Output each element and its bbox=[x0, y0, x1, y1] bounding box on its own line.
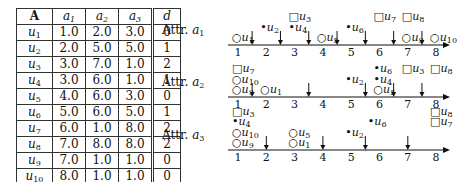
data-point: □u3 bbox=[232, 106, 255, 117]
data-point: ○u5 bbox=[317, 32, 339, 43]
data-point: ○u1 bbox=[260, 84, 282, 95]
tick-label: 3 bbox=[290, 151, 300, 164]
cut-arrow-head-icon bbox=[306, 40, 311, 45]
tick-label: 2 bbox=[261, 98, 271, 111]
axis-label: Attr. a1 bbox=[162, 23, 204, 37]
cut-arrow-head-icon bbox=[391, 40, 396, 45]
tick-label: 3 bbox=[290, 46, 300, 59]
cut-arrow-head-icon bbox=[264, 145, 269, 150]
axis-label: Attr. a2 bbox=[162, 75, 204, 89]
tick-label: 5 bbox=[346, 98, 356, 111]
cut-arrow-head-icon bbox=[306, 92, 311, 97]
cut-arrow-head-icon bbox=[419, 92, 424, 97]
tick-label: 7 bbox=[403, 151, 413, 164]
cut-arrow-head-icon bbox=[405, 145, 410, 150]
data-point: □u7 bbox=[374, 11, 397, 22]
tick-label: 2 bbox=[261, 151, 271, 164]
tick-label: 7 bbox=[403, 46, 413, 59]
tick-label: 8 bbox=[431, 46, 441, 59]
data-point: •u6 bbox=[345, 22, 364, 33]
tick-label: 6 bbox=[375, 151, 385, 164]
data-point: □u7 bbox=[232, 63, 255, 74]
tick-label: 3 bbox=[290, 98, 300, 111]
tick-label: 1 bbox=[233, 151, 243, 164]
data-point: •u6 bbox=[368, 116, 387, 127]
data-point: •u6 bbox=[374, 63, 393, 74]
data-point: •u2 bbox=[260, 22, 279, 33]
tick-label: 8 bbox=[431, 151, 441, 164]
tick-label: 6 bbox=[375, 98, 385, 111]
cut-arrow-head-icon bbox=[363, 40, 368, 45]
cut-arrow-head-icon bbox=[363, 92, 368, 97]
tick-label: 6 bbox=[375, 46, 385, 59]
data-point: •u2 bbox=[345, 127, 364, 138]
axis-arrow-icon bbox=[443, 147, 450, 153]
tick-label: 5 bbox=[346, 151, 356, 164]
data-point: ○u10 bbox=[430, 32, 457, 43]
cut-arrow-head-icon bbox=[363, 145, 368, 150]
tick-label: 5 bbox=[346, 46, 356, 59]
tick-label: 4 bbox=[318, 98, 328, 111]
axis-label: Attr. a3 bbox=[162, 128, 204, 142]
tick-label: 1 bbox=[233, 46, 243, 59]
data-point: •u2 bbox=[345, 74, 364, 85]
tick-label: 2 bbox=[261, 46, 271, 59]
data-point: □u8 bbox=[430, 106, 453, 117]
tick-label: 4 bbox=[318, 46, 328, 59]
data-point: ○u9 bbox=[402, 32, 424, 43]
data-point: □u8 bbox=[402, 11, 425, 22]
data-point: ○u5 bbox=[289, 127, 311, 138]
data-point: □u8 bbox=[430, 63, 453, 74]
tick-label: 4 bbox=[318, 151, 328, 164]
data-point: □u3 bbox=[289, 11, 312, 22]
data-point: ○u1 bbox=[232, 32, 254, 43]
data-point: ○u10 bbox=[232, 74, 259, 85]
cut-arrow-head-icon bbox=[278, 40, 283, 45]
tick-label: 7 bbox=[403, 98, 413, 111]
data-point: □u3 bbox=[402, 63, 425, 74]
cut-arrow-head-icon bbox=[320, 145, 325, 150]
axis-arrow-icon bbox=[443, 94, 450, 100]
data-point: •u4 bbox=[289, 22, 308, 33]
